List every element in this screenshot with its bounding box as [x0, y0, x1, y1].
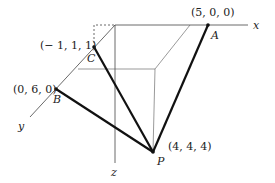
z-axis-label: z: [110, 166, 117, 179]
box-edge-vertical: [153, 69, 155, 152]
point-p: [151, 150, 155, 154]
point-a-coords: (5, 0, 0): [191, 6, 235, 19]
point-c-label: C: [87, 52, 96, 65]
y-axis-label: y: [17, 120, 25, 133]
point-c-coords: (− 1, 1, 1): [40, 39, 96, 52]
point-a-label: A: [210, 29, 219, 42]
point-p-label: P: [156, 155, 165, 168]
x-axis-label: x: [253, 19, 260, 32]
point-b-coords: (0, 6, 0): [13, 83, 57, 96]
3d-coordinate-diagram: x y z A B C P (5, 0, 0) (0, 6, 0) (− 1, …: [0, 0, 275, 183]
segment-pb: [56, 89, 153, 152]
point-p-coords: (4, 4, 4): [168, 140, 212, 153]
segment-pa: [153, 25, 208, 152]
segment-pc: [94, 47, 153, 152]
box-edge-top-right: [155, 25, 190, 69]
point-a: [206, 23, 210, 27]
